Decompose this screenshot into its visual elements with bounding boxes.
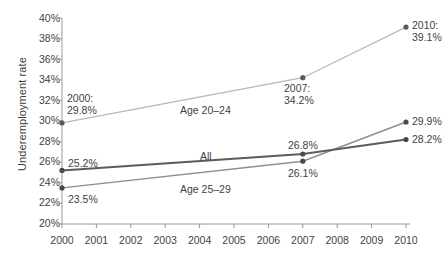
annotation-all-2007: 26.8% (288, 140, 318, 152)
x-axis-ticks (62, 224, 406, 228)
data-point-age-20-24-2010 (403, 25, 408, 30)
annotation-age-25-29-2000: 23.5% (68, 194, 98, 206)
annotation-year-2000: 2000: (67, 93, 97, 105)
data-point-all-2007 (300, 151, 305, 156)
data-point-all-2010 (403, 137, 408, 142)
data-point-age-20-24-2007 (300, 75, 305, 80)
chart-container: Underemployment rate 40% 38% 36% 34% 32%… (0, 0, 446, 260)
annotation-age-25-29-2010: 29.9% (412, 116, 442, 128)
plot-area (0, 0, 446, 260)
annotation-age-20-24-2007: 2007: 34.2% (284, 83, 314, 106)
annotation-all-2010: 28.2% (412, 134, 442, 146)
annotation-value-29-8: 29.8% (67, 105, 97, 117)
data-point-age-25-29-2007 (300, 159, 305, 164)
series-line-all (62, 140, 406, 171)
annotation-year-2010: 2010: (412, 20, 442, 32)
series-line-age-25-29 (62, 122, 406, 188)
series-label-age-20-24: Age 20–24 (180, 104, 231, 116)
annotation-year-2007: 2007: (284, 83, 314, 95)
annotation-age-20-24-2000: 2000: 29.8% (67, 93, 97, 116)
annotation-age-20-24-2010: 2010: 39.1% (412, 20, 442, 43)
annotation-value-34-2: 34.2% (284, 95, 314, 107)
series-label-age-25-29: Age 25–29 (180, 183, 231, 195)
data-point-age-25-29-2010 (403, 119, 408, 124)
series-label-all: All (200, 150, 212, 162)
annotation-value-39-1: 39.1% (412, 32, 442, 44)
data-point-age-25-29-2000 (59, 185, 64, 190)
annotation-all-2000: 25.2% (68, 158, 98, 170)
data-point-age-20-24-2000 (59, 120, 64, 125)
data-point-all-2000 (59, 168, 64, 173)
annotation-age-25-29-2007: 26.1% (288, 168, 318, 180)
series-line-age-20-24 (62, 27, 406, 123)
